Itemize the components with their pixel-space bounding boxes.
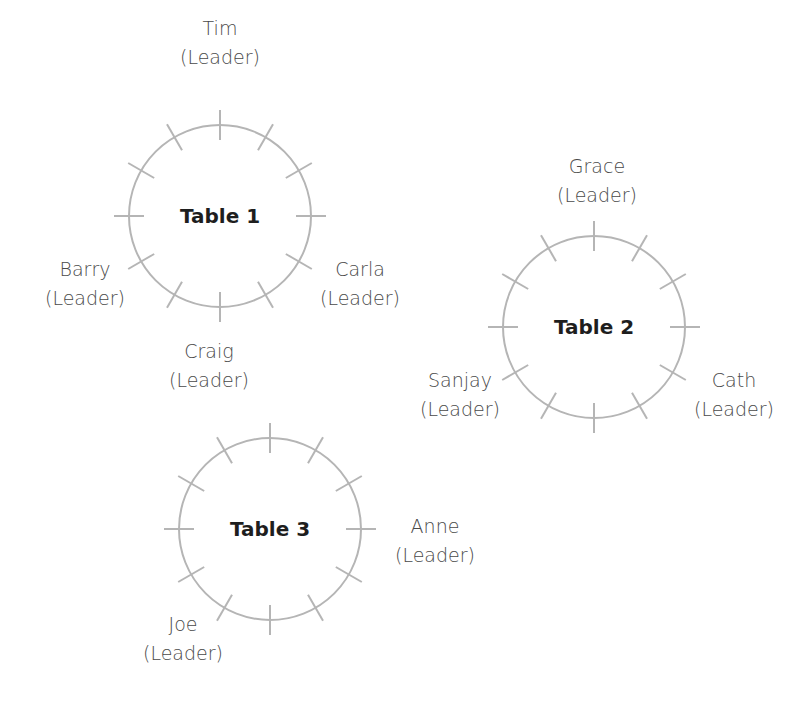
leader-name: Sanjay <box>420 366 500 395</box>
table-2-leader-top: Grace (Leader) <box>557 152 637 210</box>
seat-tick <box>336 476 362 491</box>
leader-name: Tim <box>180 14 260 43</box>
seat-tick <box>541 235 556 261</box>
table-3-leader-bottom-left: Joe (Leader) <box>143 610 223 668</box>
seat-tick <box>258 124 273 150</box>
seat-tick <box>502 365 528 380</box>
leader-role: (Leader) <box>180 43 260 72</box>
table-2-title: Table 2 <box>554 315 634 339</box>
seat-tick <box>336 567 362 582</box>
table-3-leader-right: Anne (Leader) <box>395 512 475 570</box>
leader-role: (Leader) <box>320 284 400 313</box>
seat-tick <box>308 437 323 463</box>
table-1-leader-right: Carla (Leader) <box>320 255 400 313</box>
leader-role: (Leader) <box>395 541 475 570</box>
seat-tick <box>660 274 686 289</box>
table-1-title: Table 1 <box>180 204 260 228</box>
leader-name: Joe <box>143 610 223 639</box>
seating-diagram <box>0 0 811 702</box>
table-2-leader-right: Cath (Leader) <box>694 366 774 424</box>
leader-name: Barry <box>45 255 125 284</box>
seat-tick <box>128 163 154 178</box>
seat-tick <box>632 235 647 261</box>
table-3-leader-top: Craig (Leader) <box>169 337 249 395</box>
seat-tick <box>502 274 528 289</box>
seat-tick <box>632 393 647 419</box>
leader-role: (Leader) <box>557 181 637 210</box>
table-1-leader-top: Tim (Leader) <box>180 14 260 72</box>
table-2-leader-left: Sanjay (Leader) <box>420 366 500 424</box>
leader-name: Grace <box>557 152 637 181</box>
leader-name: Cath <box>694 366 774 395</box>
table-3-title: Table 3 <box>230 517 310 541</box>
leader-name: Carla <box>320 255 400 284</box>
leader-name: Anne <box>395 512 475 541</box>
leader-role: (Leader) <box>169 366 249 395</box>
seat-tick <box>660 365 686 380</box>
seat-tick <box>167 282 182 308</box>
seat-tick <box>178 476 204 491</box>
seat-tick <box>286 163 312 178</box>
seat-tick <box>217 437 232 463</box>
seat-tick <box>178 567 204 582</box>
seat-tick <box>167 124 182 150</box>
seat-tick <box>308 595 323 621</box>
leader-role: (Leader) <box>420 395 500 424</box>
seat-tick <box>286 254 312 269</box>
seat-tick <box>128 254 154 269</box>
seat-tick <box>258 282 273 308</box>
leader-role: (Leader) <box>694 395 774 424</box>
table-1-leader-left: Barry (Leader) <box>45 255 125 313</box>
seat-tick <box>541 393 556 419</box>
leader-role: (Leader) <box>143 639 223 668</box>
leader-name: Craig <box>169 337 249 366</box>
leader-role: (Leader) <box>45 284 125 313</box>
